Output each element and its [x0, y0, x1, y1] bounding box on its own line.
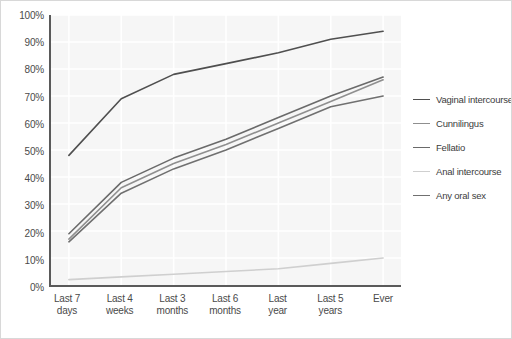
y-axis-tick-labels: 0%10%20%30%40%50%60%70%80%90%100% [1, 15, 44, 287]
x-axis-tick-label: Last 7 days [54, 293, 80, 317]
legend-item[interactable]: Vaginal intercourse [413, 87, 511, 111]
y-axis-tick-label: 10% [25, 254, 44, 265]
y-axis-tick-label: 20% [25, 227, 44, 238]
chart-figure: 0%10%20%30%40%50%60%70%80%90%100% Last 7… [0, 0, 512, 339]
legend-line-swatch [413, 195, 430, 196]
legend-label: Any oral sex [436, 190, 486, 201]
plot-wrapper [49, 15, 401, 287]
legend-label: Vaginal intercourse [436, 94, 512, 105]
legend-line-swatch [413, 123, 430, 124]
x-axis-tick-label: Last 3 months [157, 293, 189, 317]
legend-line-swatch [413, 171, 430, 172]
x-axis-tick-labels: Last 7 daysLast 4 weeksLast 3 monthsLast… [49, 293, 401, 323]
x-axis-tick-label: Ever [373, 293, 393, 305]
y-axis-tick-label: 60% [25, 118, 44, 129]
y-axis-tick-label: 100% [19, 10, 44, 21]
x-axis-tick-label: Last 4 weeks [106, 293, 133, 317]
y-axis-tick-label: 50% [25, 146, 44, 157]
series-lines [51, 15, 401, 285]
legend-item[interactable]: Fellatio [413, 135, 511, 159]
y-axis-tick-label: 80% [25, 64, 44, 75]
legend-label: Fellatio [436, 142, 465, 153]
y-axis-tick-label: 70% [25, 91, 44, 102]
y-axis-tick-label: 0% [30, 282, 44, 293]
chart-legend: Vaginal intercourseCunnilingusFellatioAn… [413, 87, 511, 207]
legend-line-swatch [413, 147, 430, 148]
x-axis-tick-label: Last 5 years [317, 293, 343, 317]
x-axis-tick-label: Last year [268, 293, 287, 317]
legend-label: Cunnilingus [436, 118, 483, 129]
legend-label: Anal intercourse [436, 166, 501, 177]
plot-area [49, 15, 401, 287]
legend-item[interactable]: Any oral sex [413, 183, 511, 207]
y-axis-tick-label: 90% [25, 37, 44, 48]
legend-item[interactable]: Cunnilingus [413, 111, 511, 135]
y-axis-tick-label: 30% [25, 200, 44, 211]
y-axis-tick-label: 40% [25, 173, 44, 184]
legend-item[interactable]: Anal intercourse [413, 159, 511, 183]
x-axis-tick-label: Last 6 months [209, 293, 241, 317]
legend-line-swatch [413, 99, 430, 100]
